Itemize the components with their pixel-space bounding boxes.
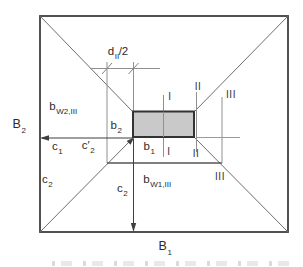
down-arrowhead-icon xyxy=(131,223,136,232)
label-c1: c1 xyxy=(52,141,62,155)
label-section-ii-top: II xyxy=(195,82,202,92)
diagonal-top-right xyxy=(194,16,288,112)
label-B1: B1 xyxy=(159,240,172,256)
label-c2-bottom: c2 xyxy=(117,183,127,197)
label-c2-left: c2 xyxy=(42,174,52,188)
figure-canvas: dII/2 bW2,III B2 b2 c1 c′2 c2 b1 c2 bW1,… xyxy=(0,0,303,267)
label-d-ii-half: dII/2 xyxy=(108,46,128,60)
label-B2: B2 xyxy=(13,118,26,134)
diagram-drawing xyxy=(0,0,303,267)
label-section-ii-bottom: II xyxy=(193,149,200,159)
label-b-w2-iii: bW2,III xyxy=(49,101,76,115)
label-section-i-bottom: I xyxy=(167,147,170,157)
diagonal-bottom-right xyxy=(194,137,288,232)
label-section-i-top: I xyxy=(168,92,171,102)
left-arrowhead-icon xyxy=(40,135,49,140)
label-b1: b1 xyxy=(144,141,155,155)
label-section-iii-bottom: III xyxy=(215,172,225,182)
label-section-iii-top: III xyxy=(226,90,236,100)
label-c2-prime: c′2 xyxy=(82,140,94,154)
label-b-w1-iii: bW1,III xyxy=(143,174,170,188)
caption-cutoff xyxy=(52,261,292,266)
diagonal-top-left xyxy=(40,16,133,112)
label-b2: b2 xyxy=(111,120,122,134)
